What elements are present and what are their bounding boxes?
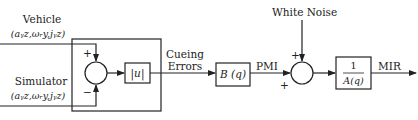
- simulator-label: Simulator: [12, 76, 70, 87]
- vehicle-signal-line: [0, 44, 96, 61]
- mir-label: MIR: [378, 61, 401, 72]
- cueing-errors-line1: Cueing: [165, 49, 205, 60]
- pmi-label: PMI: [256, 61, 278, 72]
- sum2-plus-left: +: [280, 80, 289, 91]
- cueing-errors-line2: Errors: [165, 61, 205, 72]
- sum1-plus-sign: +: [83, 48, 92, 59]
- abs-block-label: |u|: [125, 68, 150, 79]
- b-block-label: B (q): [216, 69, 250, 80]
- simulator-signals: (aᵧz,ωᵣy,jᵧz): [4, 91, 72, 101]
- vehicle-label: Vehicle: [20, 14, 64, 25]
- summing-junction-2: [291, 62, 313, 84]
- a-block-numerator: 1: [336, 61, 371, 71]
- sum2-plus-top: +: [291, 50, 300, 61]
- summing-junction-1: [85, 62, 107, 84]
- a-block-denominator: A(q): [336, 76, 371, 86]
- white-noise-label: White Noise: [272, 7, 334, 18]
- vehicle-signals: (aᵧz,ωᵣy,jᵧz): [4, 29, 72, 39]
- sum1-minus-sign: −: [83, 87, 92, 98]
